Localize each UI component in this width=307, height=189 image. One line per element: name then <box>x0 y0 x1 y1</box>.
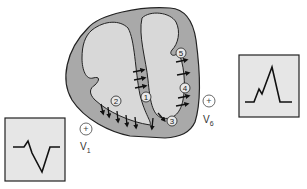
svg-text:1: 1 <box>144 93 149 102</box>
sequence-marker-5: 5 <box>176 48 186 58</box>
v1-label: V1 <box>80 141 91 154</box>
v6-ecg-box <box>239 55 299 117</box>
svg-text:5: 5 <box>179 49 184 58</box>
v1-ecg-box <box>5 118 65 181</box>
svg-text:+: + <box>83 124 88 134</box>
sequence-marker-3: 3 <box>167 116 177 126</box>
v6-electrode: + <box>203 95 215 107</box>
svg-text:3: 3 <box>170 117 175 126</box>
svg-text:2: 2 <box>114 97 119 106</box>
v6-label: V6 <box>203 114 214 127</box>
sequence-marker-2: 2 <box>111 96 121 106</box>
v1-electrode: + <box>80 123 92 135</box>
heart-depolarization-diagram: 1 2 3 4 5 + + <box>0 0 307 189</box>
sequence-marker-1: 1 <box>141 92 151 102</box>
svg-text:4: 4 <box>183 84 188 93</box>
svg-text:+: + <box>206 96 211 106</box>
sequence-marker-4: 4 <box>180 83 190 93</box>
